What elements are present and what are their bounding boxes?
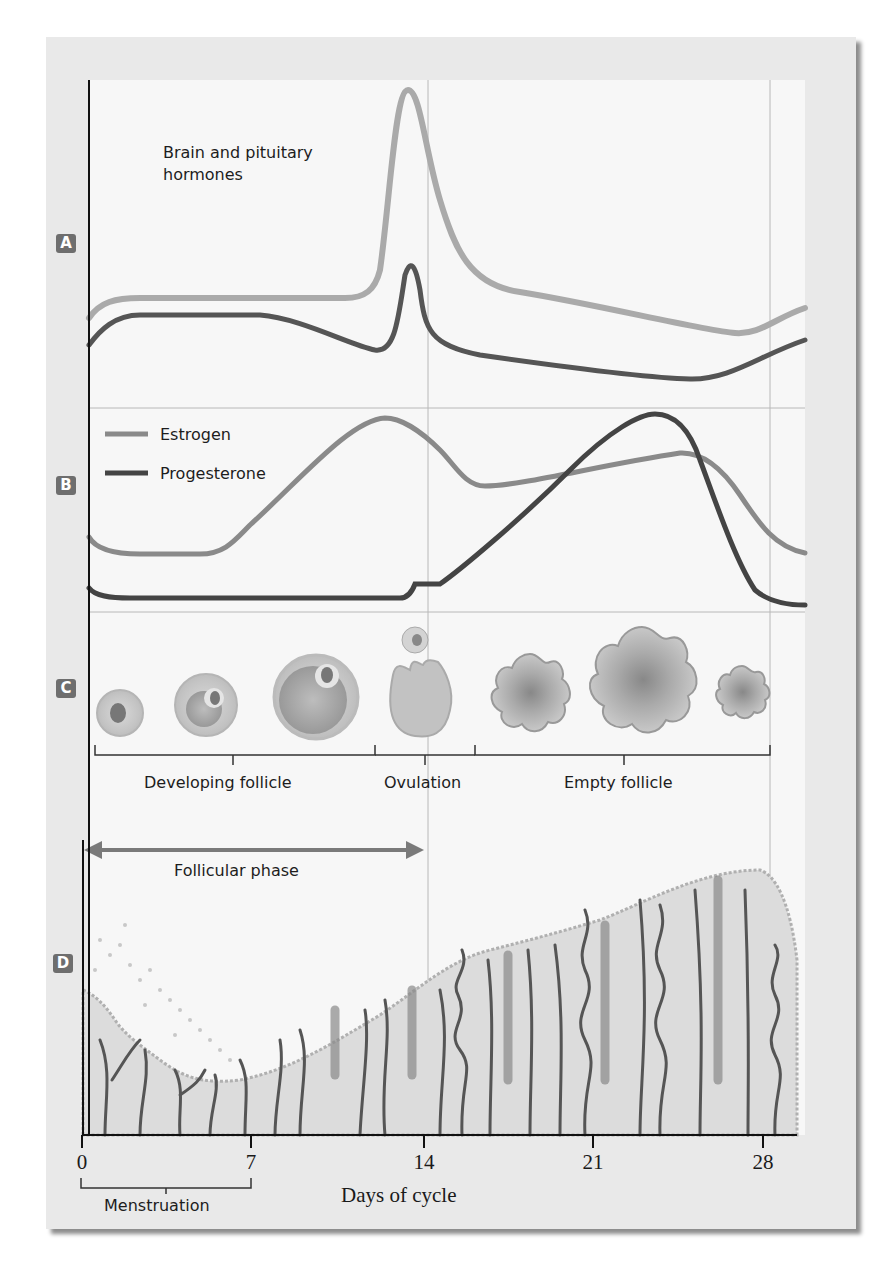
ovulation-label: Ovulation [384, 773, 461, 792]
panel-c-badge: C [56, 679, 76, 698]
legend-estrogen-label: Estrogen [160, 425, 231, 444]
panel-b-badge: B [56, 476, 76, 495]
tick-label-14: 14 [414, 1150, 435, 1175]
lh-curve [89, 90, 805, 333]
corpus-luteum-1 [492, 654, 570, 731]
panel-d-badge: D [53, 954, 73, 973]
menstruation-bracket [81, 1178, 251, 1194]
legend-progesterone-label: Progesterone [160, 464, 266, 483]
x-axis-label: Days of cycle [341, 1183, 456, 1208]
tick-label-21: 21 [583, 1150, 604, 1175]
tick-label-0: 0 [77, 1150, 88, 1175]
endometrium-illustration [83, 870, 797, 1135]
follicle-illustrations [97, 627, 769, 739]
follicle-stage-brackets [95, 745, 770, 765]
empty-follicle-label: Empty follicle [564, 773, 673, 792]
panel-a-badge: A [56, 234, 76, 253]
menstruation-label: Menstruation [104, 1196, 210, 1215]
fsh-curve [89, 266, 805, 379]
follicular-phase-label: Follicular phase [174, 861, 299, 880]
ruptured-follicle [390, 660, 451, 736]
panel-a-title-line2: hormones [163, 165, 243, 184]
x-axis-ticks [82, 1135, 763, 1148]
tick-label-28: 28 [753, 1150, 774, 1175]
panel-a-title-line1: Brain and pituitary [163, 143, 313, 162]
corpus-luteum-2 [590, 627, 697, 733]
menstrual-cycle-diagram [0, 0, 893, 1270]
follicular-phase-arrow [84, 841, 424, 859]
developing-follicle-label: Developing follicle [144, 773, 292, 792]
corpus-albicans [716, 666, 769, 718]
tick-label-7: 7 [246, 1150, 257, 1175]
